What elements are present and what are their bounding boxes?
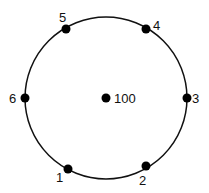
point-2: 2 bbox=[139, 162, 151, 189]
center-node: 100 bbox=[102, 91, 136, 106]
point-label: 6 bbox=[9, 91, 16, 106]
circle-diagram: 123456 100 bbox=[0, 0, 209, 193]
point-label: 3 bbox=[192, 91, 199, 106]
point-label: 4 bbox=[153, 18, 160, 33]
point-label: 5 bbox=[59, 10, 66, 25]
point-marker bbox=[64, 165, 73, 174]
point-1: 1 bbox=[56, 165, 73, 186]
point-marker bbox=[142, 162, 151, 171]
point-marker bbox=[62, 25, 71, 34]
point-marker bbox=[21, 94, 30, 103]
point-label: 2 bbox=[139, 173, 146, 188]
point-marker bbox=[183, 94, 192, 103]
center-label: 100 bbox=[114, 91, 136, 106]
point-6: 6 bbox=[9, 91, 30, 106]
center-point bbox=[102, 94, 111, 103]
point-label: 1 bbox=[56, 170, 63, 185]
point-marker bbox=[142, 25, 151, 34]
point-3: 3 bbox=[183, 91, 200, 106]
